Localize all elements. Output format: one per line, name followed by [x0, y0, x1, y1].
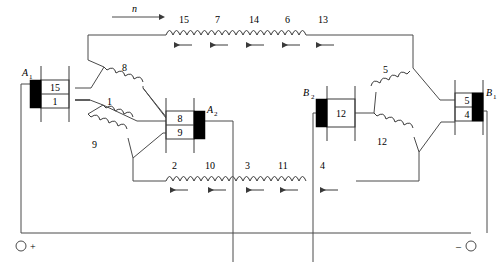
brush-label-B1-sub: 1: [493, 93, 497, 101]
brush-assembly-A1[interactable]: 15 1 A 1: [21, 66, 69, 122]
brush-label-A2: A: [206, 104, 214, 115]
brush-label-A1: A: [21, 67, 29, 78]
circuit-diagram-figure: n 15 7 14 6 13: [0, 0, 501, 262]
brush-assembly-A2[interactable]: 8 9 A 2: [166, 98, 218, 153]
armature-left-coil-label-8: 8: [122, 62, 127, 73]
brush-block-A2[interactable]: [194, 111, 205, 139]
armature-left-coil-label-9: 9: [92, 139, 97, 150]
top-coil-label-4: 13: [318, 14, 328, 25]
brush-label-B2-sub: 2: [311, 93, 315, 101]
bottom-coil-label-3: 11: [278, 160, 288, 171]
terminal-positive[interactable]: +: [16, 241, 36, 252]
brush-label-B1: B: [486, 87, 492, 98]
bottom-coil-label-0: 2: [172, 160, 177, 171]
bottom-coil-label-4: 4: [320, 160, 325, 171]
bottom-coil-label-2: 3: [245, 160, 250, 171]
brush-label-A1-sub: 1: [29, 73, 33, 81]
brush-assembly-B1[interactable]: 5 4 B 1: [455, 80, 497, 135]
armature-left-coil-label-1: 1: [107, 96, 112, 107]
top-coil-label-1: 7: [215, 14, 220, 25]
bottom-circuit-branch: 2 10 3 11 4: [166, 160, 338, 190]
brush-block-A1[interactable]: [30, 80, 41, 108]
brush-assembly-B2[interactable]: 12 B 2: [303, 86, 355, 141]
winding-diagram-svg: n 15 7 14 6 13: [0, 0, 501, 262]
bottom-coil-label-1: 10: [205, 160, 215, 171]
top-coil-label-3: 6: [285, 14, 290, 25]
supply-loop-wiring: [21, 84, 487, 262]
left-armature-coil-group: 8 1 9: [75, 62, 177, 181]
terminal-circle-positive[interactable]: [16, 241, 26, 251]
brush-block-B1[interactable]: [472, 93, 483, 121]
armature-right-coil-label-5: 5: [383, 64, 388, 75]
terminal-label-positive: +: [30, 241, 36, 252]
top-circuit-branch: 15 7 14 6 13: [88, 14, 413, 68]
commutator-segment-label-B1-bottom: 4: [465, 109, 470, 120]
top-coil-label-2: 14: [249, 14, 259, 25]
commutator-segment-label-A1-bottom: 1: [53, 96, 58, 107]
rotation-label: n: [132, 3, 137, 14]
commutator-segment-label-A1-top: 15: [50, 82, 60, 93]
brush-label-B2: B: [303, 87, 309, 98]
commutator-segment-label-B1-top: 5: [465, 95, 470, 106]
brush-label-A2-sub: 2: [214, 110, 218, 118]
terminal-circle-negative[interactable]: [466, 241, 476, 251]
top-coil-label-0: 15: [179, 14, 189, 25]
brush-block-B2[interactable]: [316, 99, 327, 127]
rotation-direction-indicator: n: [112, 3, 160, 17]
commutator-segment-label-A2-bottom: 9: [178, 127, 183, 138]
armature-right-coil-label-12: 12: [377, 136, 387, 147]
right-armature-coil-group: 5 12: [349, 64, 455, 181]
commutator-segment-label-A2-top: 8: [178, 113, 183, 124]
terminal-negative[interactable]: –: [455, 241, 476, 252]
commutator-segment-label-B2: 12: [336, 108, 346, 119]
terminal-label-negative: –: [455, 241, 462, 252]
